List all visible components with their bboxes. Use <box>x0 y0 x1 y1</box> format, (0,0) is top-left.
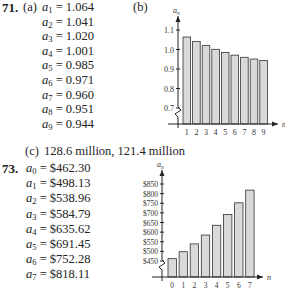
y-tick-label: $500 <box>143 247 158 256</box>
bar <box>190 244 198 277</box>
x-axis-arrow-icon <box>257 275 263 280</box>
x-tick-label: 7 <box>242 128 246 137</box>
x-tick-label: 3 <box>204 281 208 290</box>
bar-chart-73: 01234567nan$450$500$550$600$650$700$750$… <box>0 160 285 301</box>
x-tick-label: 3 <box>204 128 208 137</box>
x-tick-label: 5 <box>226 281 230 290</box>
x-tick-label: 1 <box>181 281 185 290</box>
bar-chart-71: 123456789nan0.70.80.91.01.1 <box>0 0 285 160</box>
bar <box>260 60 268 124</box>
bar <box>202 46 210 124</box>
y-tick-label: $700 <box>143 209 158 218</box>
y-axis-label: an <box>157 160 164 170</box>
bar <box>224 215 232 277</box>
y-tick-label: $750 <box>143 199 158 208</box>
x-tick-label: 4 <box>214 128 218 137</box>
y-tick-label: $650 <box>143 219 158 228</box>
bar <box>241 57 249 124</box>
bar <box>235 203 243 277</box>
x-tick-label: 8 <box>252 128 256 137</box>
x-axis-arrow-icon <box>272 122 278 127</box>
x-axis-label: n <box>282 120 285 129</box>
y-tick-label: $850 <box>143 180 158 189</box>
y-tick-label: 0.8 <box>164 85 174 94</box>
x-tick-label: 6 <box>237 281 241 290</box>
x-tick-label: 9 <box>262 128 266 137</box>
y-axis-arrow-icon <box>176 16 181 22</box>
y-tick-label: 1.1 <box>164 26 174 35</box>
bar <box>183 37 191 124</box>
y-tick-label: $550 <box>143 238 158 247</box>
x-tick-label: 2 <box>194 128 198 137</box>
y-tick-label: $800 <box>143 190 158 199</box>
bar <box>212 225 220 277</box>
y-tick-label: 0.9 <box>164 65 174 74</box>
bar <box>168 259 176 277</box>
x-tick-label: 1 <box>185 128 189 137</box>
bar <box>231 55 239 124</box>
x-tick-label: 7 <box>248 281 252 290</box>
y-tick-label: 1.0 <box>164 46 174 55</box>
x-axis-label: n <box>267 273 271 282</box>
x-tick-label: 2 <box>193 281 197 290</box>
bar <box>179 252 187 277</box>
bar <box>221 52 229 124</box>
bar <box>250 59 258 124</box>
x-tick-label: 4 <box>215 281 219 290</box>
y-axis-label: an <box>173 6 180 16</box>
bar <box>201 235 209 277</box>
y-tick-label: 0.7 <box>164 104 174 113</box>
y-tick-label: $450 <box>143 257 158 266</box>
x-tick-label: 0 <box>170 281 174 290</box>
y-axis-arrow-icon <box>160 170 165 176</box>
x-tick-label: 5 <box>223 128 227 137</box>
x-tick-label: 6 <box>233 128 237 137</box>
y-tick-label: $600 <box>143 228 158 237</box>
bar <box>246 190 254 277</box>
bar <box>193 42 201 124</box>
bar <box>212 49 220 124</box>
